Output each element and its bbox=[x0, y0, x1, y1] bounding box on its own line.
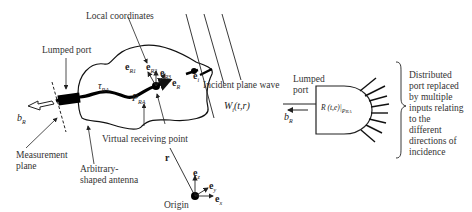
symbol-e-z: ez bbox=[193, 167, 200, 180]
label-origin: Origin bbox=[164, 200, 189, 211]
description-line: directions of bbox=[409, 136, 464, 147]
brace bbox=[396, 62, 406, 158]
description-line: to the bbox=[409, 114, 464, 125]
label-incident-plane-wave: Incident plane wave bbox=[203, 80, 280, 91]
outgoing-wave-arrow bbox=[28, 101, 54, 110]
label-arbitrary-antenna-2: shaped antenna bbox=[80, 175, 138, 186]
description-line: incidence bbox=[409, 147, 464, 158]
block-text: R (t,e)|PRA bbox=[321, 103, 352, 114]
symbol-e-r1: eR1 bbox=[125, 61, 136, 74]
label-lumped-port: Lumped port bbox=[42, 45, 91, 56]
description-line: inputs relating bbox=[409, 103, 464, 114]
symbol-tau-ra: τRA bbox=[98, 80, 109, 93]
lumped-port-block bbox=[57, 93, 80, 106]
label-virtual-receiving-point: Virtual receiving point bbox=[102, 134, 188, 145]
label-measurement-plane-2: plane bbox=[16, 161, 37, 172]
description-line: by multiple bbox=[409, 92, 464, 103]
symbol-p-ra: PRA bbox=[132, 92, 145, 105]
label-lumped-port-right-1: Lumped bbox=[293, 74, 325, 85]
symbol-b-r-left: bR bbox=[17, 112, 26, 125]
symbol-e-r2: eR2 bbox=[146, 61, 157, 74]
label-local-coordinates: Local coordinates bbox=[86, 11, 154, 22]
symbol-e-i: ei bbox=[193, 70, 199, 83]
symbol-e-x: ex bbox=[215, 193, 222, 206]
symbol-w-i: Wi(t,r) bbox=[224, 100, 250, 113]
description-line: Distributed bbox=[409, 70, 464, 81]
description-line: different bbox=[409, 125, 464, 136]
symbol-e-r3: eR3 bbox=[160, 67, 171, 80]
antenna-receiving-diagram: Local coordinates Lumped port Measuremen… bbox=[0, 0, 472, 212]
description-line: port replaced bbox=[409, 81, 464, 92]
label-arbitrary-antenna-1: Arbitrary- bbox=[80, 164, 119, 175]
symbol-r: r bbox=[165, 152, 169, 163]
description-block: Distributed port replaced by multiple in… bbox=[409, 70, 464, 158]
label-lumped-port-right-2: port bbox=[293, 85, 308, 96]
symbol-e-y: ey bbox=[209, 180, 216, 193]
measurement-plane bbox=[52, 82, 66, 132]
symbol-e-r: eR bbox=[172, 77, 180, 90]
label-measurement-plane-1: Measurement bbox=[16, 150, 68, 161]
symbol-b-r-right: bR bbox=[284, 111, 293, 124]
